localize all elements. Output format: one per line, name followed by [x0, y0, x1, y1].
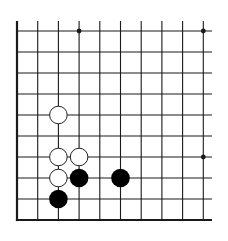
board-grid — [16, 21, 212, 221]
star-point-icon — [201, 29, 206, 34]
white-stone[interactable] — [50, 106, 68, 124]
star-point-icon — [201, 155, 206, 160]
black-stone[interactable] — [49, 190, 68, 209]
star-point-icon — [77, 29, 82, 34]
white-stone[interactable] — [50, 148, 68, 166]
white-stone[interactable] — [70, 148, 88, 166]
go-board — [0, 0, 228, 241]
white-stone[interactable] — [50, 169, 68, 187]
black-stone[interactable] — [70, 169, 89, 188]
black-stone[interactable] — [111, 169, 130, 188]
